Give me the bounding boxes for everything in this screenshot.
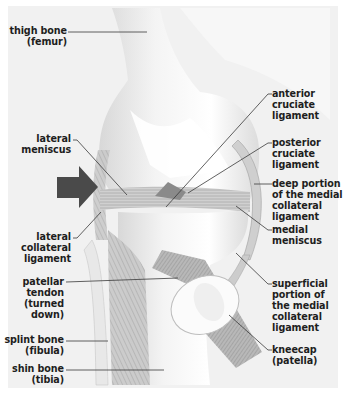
label-superficial-medial-collateral-ligament: superficial portion of the medial collat…	[272, 278, 329, 333]
label-shin-bone: shin bone (tibia)	[12, 363, 64, 385]
label-kneecap: kneecap (patella)	[272, 344, 317, 366]
label-thigh-bone: thigh bone (femur)	[9, 25, 67, 47]
label-lateral-collateral-ligament: lateral collateral ligament	[21, 231, 71, 264]
fibula-shape	[84, 240, 108, 385]
label-anterior-cruciate-ligament: anterior cruciate ligament	[272, 88, 319, 121]
label-lateral-meniscus: lateral meniscus	[21, 133, 71, 155]
label-splint-bone: splint bone (fibula)	[4, 334, 64, 356]
label-deep-medial-collateral-ligament: deep portion of the medial collateral li…	[272, 178, 343, 222]
label-medial-meniscus: medial meniscus	[272, 224, 322, 246]
label-patellar-tendon: patellar tendon (turned down)	[23, 276, 64, 320]
direction-arrow-icon	[57, 166, 98, 208]
label-posterior-cruciate-ligament: posterior cruciate ligament	[272, 137, 321, 170]
